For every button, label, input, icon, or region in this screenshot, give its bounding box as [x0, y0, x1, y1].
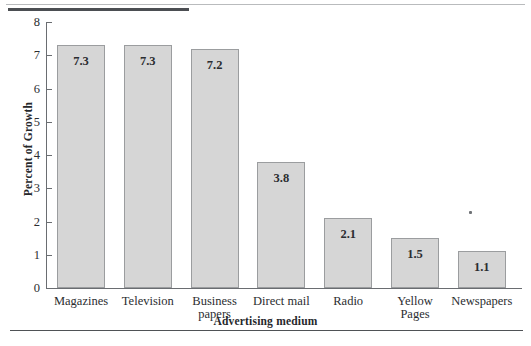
x-axis-line [46, 288, 522, 289]
category-label-line: Newspapers [447, 295, 517, 308]
bar [391, 238, 439, 288]
y-axis-tick [46, 222, 52, 223]
y-axis-tick [46, 255, 52, 256]
y-axis-tick-label: 8 [16, 16, 40, 29]
y-axis-tick [46, 89, 52, 90]
y-axis-tick [46, 188, 52, 189]
bar-value-label: 7.2 [191, 59, 239, 72]
bar-value-label: 3.8 [257, 172, 305, 185]
bar [57, 45, 105, 288]
x-axis-category-label: Radio [313, 295, 383, 308]
y-axis-tick-label: 4 [16, 149, 40, 162]
bar-value-label: 2.1 [324, 228, 372, 241]
y-axis-tick-label: 2 [16, 216, 40, 229]
bar-chart: Percent of Growth 012345678 7.37.37.23.8… [0, 0, 531, 346]
x-axis-title: Advertising medium [0, 315, 531, 327]
y-axis-tick [46, 122, 52, 123]
bar-value-label: 1.5 [391, 248, 439, 261]
y-axis-tick-label: 1 [16, 249, 40, 262]
y-axis-tick-label: 0 [16, 282, 40, 295]
y-axis-tick [46, 155, 52, 156]
y-axis-tick [46, 22, 52, 23]
x-axis-category-label: Direct mail [246, 295, 316, 308]
category-label-line: Radio [313, 295, 383, 308]
bar-value-label: 1.1 [458, 261, 506, 274]
bottom-rule [10, 330, 523, 331]
y-axis-tick-label: 3 [16, 182, 40, 195]
y-axis-tick-label: 5 [16, 116, 40, 129]
category-label-line: Television [113, 295, 183, 308]
category-label-line: Magazines [46, 295, 116, 308]
bar [124, 45, 172, 288]
bar-value-label: 7.3 [124, 55, 172, 68]
y-axis-tick-label: 7 [16, 49, 40, 62]
x-axis-category-label: Newspapers [447, 295, 517, 308]
category-label-line: Direct mail [246, 295, 316, 308]
y-axis-tick-label: 6 [16, 83, 40, 96]
bar-value-label: 7.3 [57, 55, 105, 68]
y-axis-tick [46, 55, 52, 56]
scan-speck-artifact [469, 211, 472, 214]
y-axis-tick [46, 288, 52, 289]
x-axis-category-label: Magazines [46, 295, 116, 308]
x-axis-category-label: Television [113, 295, 183, 308]
bar [191, 49, 239, 288]
